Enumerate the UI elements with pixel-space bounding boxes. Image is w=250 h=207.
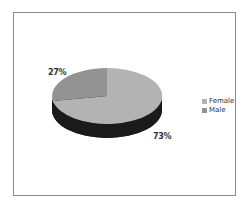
male-percent-label: 27%: [48, 68, 66, 77]
legend-item-female[interactable]: Female: [202, 97, 234, 106]
legend-swatch-male: [202, 108, 207, 113]
legend-label-female: Female: [209, 97, 234, 106]
legend-item-male[interactable]: Male: [202, 106, 234, 115]
legend-swatch-female: [202, 99, 207, 104]
legend: Female Male: [202, 97, 234, 115]
legend-label-male: Male: [209, 106, 226, 115]
female-percent-label: 73%: [153, 132, 171, 141]
